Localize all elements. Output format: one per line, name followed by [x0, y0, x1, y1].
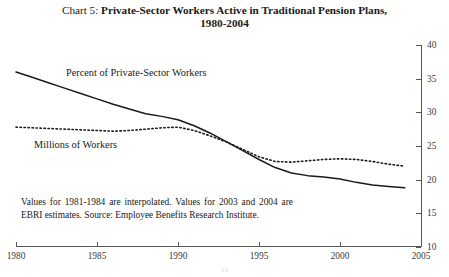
- y-tick-label-15: 15: [427, 208, 436, 218]
- x-tick-2005: [421, 242, 422, 246]
- chart-title: Chart 5: Private-Sector Workers Active i…: [22, 4, 427, 30]
- x-axis-line: [16, 246, 422, 247]
- series-line-percent: [16, 72, 405, 188]
- y-tick-label-20: 20: [427, 175, 436, 185]
- y-tick-30: [416, 112, 421, 113]
- title-main: Private-Sector Workers Active in Traditi…: [101, 4, 387, 16]
- x-tick-label-1990: 1990: [169, 251, 188, 261]
- y-tick-20: [416, 180, 421, 181]
- title-line-1: Chart 5: Private-Sector Workers Active i…: [22, 4, 427, 17]
- y-tick-40: [416, 45, 421, 46]
- y-axis-line: [421, 45, 422, 247]
- y-tick-25: [416, 146, 421, 147]
- y-tick-label-40: 40: [427, 40, 436, 50]
- x-tick-1985: [97, 242, 98, 246]
- x-tick-label-1995: 1995: [250, 251, 269, 261]
- x-tick-1980: [16, 242, 17, 246]
- page-number: 15: [0, 266, 449, 274]
- x-tick-label-2000: 2000: [331, 251, 350, 261]
- y-tick-35: [416, 79, 421, 80]
- y-tick-label-30: 30: [427, 107, 436, 117]
- y-tick-label-35: 35: [427, 74, 436, 84]
- x-tick-label-1980: 1980: [7, 251, 26, 261]
- x-tick-1990: [178, 242, 179, 246]
- series-annotation-percent: Percent of Private-Sector Workers: [66, 67, 207, 78]
- title-line-2: 1980-2004: [22, 17, 427, 30]
- chart-figure: Chart 5: Private-Sector Workers Active i…: [0, 0, 449, 277]
- x-tick-label-2005: 2005: [412, 251, 431, 261]
- title-prefix: Chart 5:: [62, 4, 98, 16]
- x-tick-1995: [259, 242, 260, 246]
- x-tick-2000: [340, 242, 341, 246]
- y-tick-15: [416, 213, 421, 214]
- series-annotation-millions: Millions of Workers: [34, 139, 117, 150]
- x-tick-label-1985: 1985: [88, 251, 107, 261]
- chart-footnote: Values for 1981-1984 are interpolated. V…: [21, 196, 293, 222]
- y-tick-label-25: 25: [427, 141, 436, 151]
- y-tick-label-10: 10: [427, 242, 436, 252]
- y-tick-10: [416, 247, 421, 248]
